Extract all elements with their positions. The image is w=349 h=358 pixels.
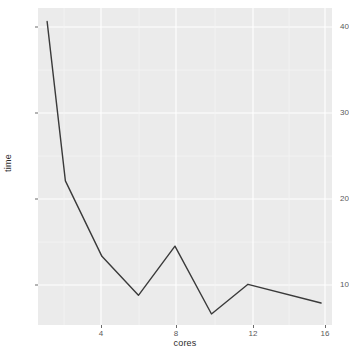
x-tick-mark-8 [176,325,177,328]
x-axis-title: cores [38,338,332,348]
x-tick-mark-16 [325,325,326,328]
x-tick-mark-12 [253,325,254,328]
x-tick-label-8: 8 [164,330,188,338]
chart-container: 40 30 20 10 4 8 12 16 time cores [0,0,349,358]
x-tick-label-12: 12 [241,330,265,338]
x-tick-label-16: 16 [313,330,337,338]
x-axis-ticks: 4 8 12 16 [0,0,349,358]
x-tick-mark-4 [101,325,102,328]
x-tick-label-4: 4 [89,330,113,338]
